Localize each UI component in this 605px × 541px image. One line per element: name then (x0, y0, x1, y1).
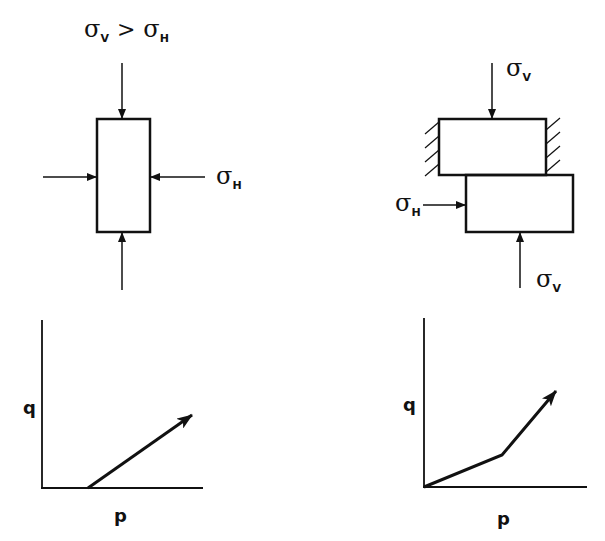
p-axis-label: p (114, 505, 127, 526)
sigma-v-top-label: σV (506, 54, 531, 84)
lower-box (466, 175, 573, 232)
stress-condition-label: σV>σH (84, 15, 169, 45)
stress-path-arrow (88, 415, 192, 488)
upper-box (439, 119, 546, 175)
stress-path-plot-left: q p (23, 320, 203, 526)
sigma-h-label: σH (216, 162, 242, 192)
direct-shear-specimen: σV σH σV (395, 54, 573, 295)
q-axis-label: q (23, 397, 36, 418)
specimen-rect (97, 119, 150, 232)
sigma-h-label: σH (395, 189, 421, 219)
stress-path-plot-right: q p (403, 318, 587, 529)
triaxial-specimen: σV>σH σH (43, 15, 242, 290)
p-axis-label: p (497, 508, 510, 529)
sigma-v-bottom-label: σV (536, 265, 561, 295)
q-axis-label: q (403, 394, 416, 415)
stress-path-arrow (424, 391, 556, 487)
fixed-support-left-hatch (425, 122, 439, 176)
stress-diagram: σV>σH σH σV σH σV (0, 0, 605, 541)
fixed-support-right-hatch (546, 118, 560, 172)
